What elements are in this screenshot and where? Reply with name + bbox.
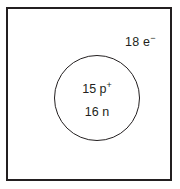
neutron-count-value: 16 [85, 105, 99, 119]
electron-cloud-boundary: 18 e− 15 p+ 16 n [6, 7, 172, 181]
proton-count-label: 15 p+ [54, 83, 140, 96]
atom-diagram: 18 e− 15 p+ 16 n Atomic particle diagram [0, 0, 180, 189]
nucleus-label-group: 15 p+ 16 n [54, 83, 140, 118]
electron-count-value: 18 [125, 35, 139, 49]
electron-count-label: 18 e− [125, 36, 156, 49]
electron-charge-superscript: − [150, 33, 155, 43]
figure-title: Atomic particle diagram [0, 0, 1, 1]
neutron-symbol: n [102, 105, 109, 119]
proton-count-value: 15 [82, 82, 96, 96]
neutron-count-label: 16 n [54, 106, 140, 119]
proton-charge-superscript: + [107, 80, 112, 90]
proton-symbol: p [100, 82, 107, 96]
